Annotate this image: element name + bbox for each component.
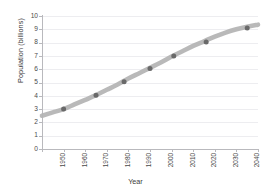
data-point-marker xyxy=(61,107,66,112)
data-point-marker xyxy=(245,25,250,30)
series-layer xyxy=(0,0,271,193)
data-point-marker xyxy=(204,39,209,44)
x-axis-title: Year xyxy=(0,177,271,186)
data-point-marker xyxy=(148,66,153,71)
data-point-marker xyxy=(94,93,99,98)
data-point-marker xyxy=(171,53,176,58)
population-line-chart: Population (billions) 012345678910 19501… xyxy=(0,0,271,193)
data-point-marker xyxy=(122,79,127,84)
